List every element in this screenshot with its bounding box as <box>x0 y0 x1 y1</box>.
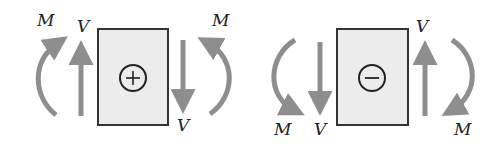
negative-panel <box>274 29 472 125</box>
pos-right-shear-label: V <box>177 117 189 134</box>
neg-left-moment-label: M <box>274 121 291 138</box>
positive-panel <box>38 29 229 125</box>
neg-right-moment-label: M <box>454 121 471 138</box>
neg-left-shear-label: V <box>314 121 326 138</box>
element-box <box>337 29 408 125</box>
pos-left-moment-label: M <box>37 12 54 29</box>
left-moment-arrow-icon <box>274 40 295 110</box>
pos-right-moment-label: M <box>212 12 229 29</box>
right-moment-arrow-icon <box>452 40 472 110</box>
pos-left-shear-label: V <box>77 18 89 35</box>
right-moment-arrow-icon <box>208 43 229 114</box>
neg-right-shear-label: V <box>416 18 428 35</box>
left-moment-arrow-icon <box>38 43 58 115</box>
